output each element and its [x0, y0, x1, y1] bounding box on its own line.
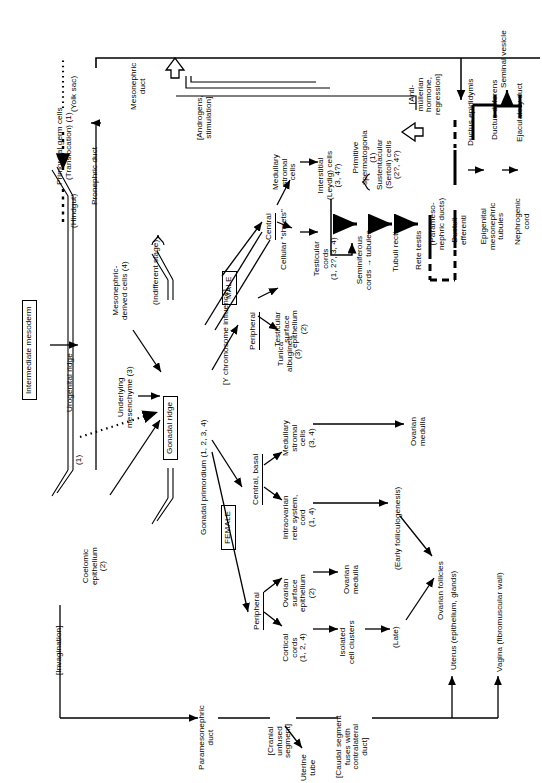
node-invagination: [Invagination]: [55, 625, 64, 675]
node-sustentacular-sertoli-cells: Sustentacular (Sertoli) cells (2?, 4?): [376, 139, 402, 190]
connector-layer: [0, 0, 542, 783]
node-intermediate-mesoderm: Intermediate mesoderm: [22, 300, 37, 400]
node-paramesonephric-ducts-note: (Parameso- nephric ducts): [429, 198, 446, 250]
node-mesonephric-duct: Mesonephric duct: [130, 63, 147, 110]
node-indifferent-stage: (Indifferent stage): [152, 240, 161, 305]
node-paramesonephric-duct: Paramesonephric duct: [198, 705, 215, 770]
node-male-central: Central: [265, 213, 276, 240]
node-female-central-basal: Central, basal: [252, 454, 263, 505]
node-ductus-epididymis: Ductus epididymis: [467, 79, 476, 146]
node-marker-1: (1): [75, 455, 84, 465]
node-medullary-stromal-cells-male: Medullary stromal cells: [272, 154, 298, 190]
node-intraovarian-rete-system: Intraovarian rete system, cord (1, 4): [282, 495, 317, 540]
node-female-label: FEMALE: [221, 505, 236, 550]
node-ductus-deferens: Ductus deferens: [491, 80, 500, 140]
diagram-canvas: Primordial germ cells (Translocation) (1…: [0, 0, 542, 783]
node-ovarian-medulla-1: Ovarian medulla: [410, 417, 427, 446]
node-interstitial-leydig-cells: Interstitial (Leydig) cells (3, 4?): [317, 151, 343, 200]
node-gonadal-primordium: Gonadal primordium (1, 2, 3, 4): [200, 419, 209, 535]
node-caudal-segment-fuses: [Caudal segment fuses with contralateral…: [335, 715, 370, 778]
node-pronephric-duct: Pronephric duct: [91, 147, 100, 205]
node-seminiferous-cords-tubules: Seminiferous cords → tubules: [356, 230, 373, 290]
node-male-label: MALE: [222, 271, 237, 305]
node-tubuli-recti: Tubuli recti: [392, 232, 401, 272]
node-male-peripheral: Peripheral: [249, 312, 260, 350]
node-hindgut: (Hindgut): [70, 194, 79, 228]
node-medullary-stromal-cells-female: Medullary stromal cells (3, 4): [282, 420, 317, 456]
node-uterus: Uterus (epithelium, glands): [450, 571, 459, 670]
node-ductuli-efferenti: Ductuli efferenti: [451, 215, 468, 245]
node-coelomic-epithelium: Coelomic epithelium (2): [82, 547, 108, 585]
node-urogenital-ridge: Urogenital ridge: [66, 353, 75, 412]
node-early-folliculogenesis: (Early folliculogenesis): [394, 487, 403, 570]
node-epigenital-mesonephric-tubules: Epigenital mesonephric tubules: [480, 203, 506, 250]
node-nephrogenic-cord: Nephrogenic cord: [514, 198, 531, 245]
node-androgens-stimulation: [Androgens, stimulation]: [196, 95, 213, 140]
node-isolated-cell-clusters: Isolated cell clusters: [339, 620, 356, 664]
node-underlying-mesenchyme: Underlying mesenchyme (3): [117, 366, 134, 428]
node-ejaculatory-duct: Ejaculatory duct: [516, 83, 525, 142]
node-anti-mullerian-hormone: [Anti- müllerian hormone, regression]: [408, 74, 443, 115]
node-cranial-unfused-segment: [Cranial unfused segment]: [267, 724, 293, 758]
node-late: (Late): [392, 626, 401, 648]
node-ovarian-medulla-2: Ovarian medulla: [343, 565, 360, 594]
node-ovarian-follicles: Ovarian follicles: [437, 561, 446, 620]
node-cortical-cords: Cortical cords (1, 2, 4): [282, 633, 308, 662]
node-yolk-sac: (Yolk sac): [70, 76, 79, 112]
node-mesonephric-derived-cells: Mesonephric- derived cells (4): [112, 261, 129, 320]
node-seminal-vesicle: Seminal vesicle: [500, 30, 509, 88]
node-testicular-surface-epithelium: Testicular surface epithelium (2): [274, 310, 309, 348]
node-gonadal-ridge: Gonadal ridge: [163, 396, 178, 460]
node-ovarian-surface-epithelium: Ovarian surface epithelium (2): [282, 574, 317, 612]
node-primordial-germ-cells: Primordial germ cells (Translocation) (1…: [56, 107, 73, 185]
node-testicular-cords: Testicular cords (1, 2?, 3, 4): [313, 237, 339, 280]
node-vagina: Vagina (fibromuscular wall): [496, 572, 505, 672]
node-cellular-sheets: Cellular "sheets": [280, 209, 289, 270]
node-uterine-tube: Uterine tube: [300, 754, 317, 781]
node-rete-testis: Rete testis: [415, 231, 424, 270]
node-female-peripheral: Peripheral: [253, 592, 264, 630]
